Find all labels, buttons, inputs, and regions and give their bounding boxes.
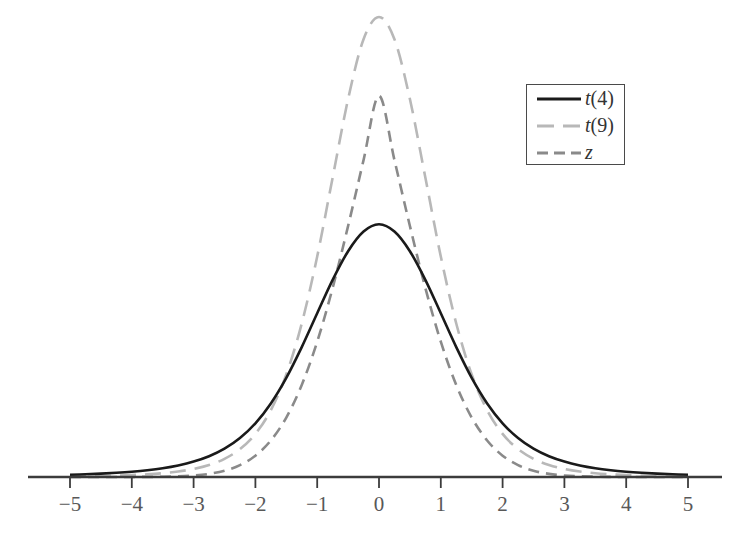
x-axis-tick-label: −5 (40, 494, 100, 515)
legend-label-t-9: t(9) (585, 114, 614, 137)
legend-entry-t-4: t(4) (527, 85, 624, 112)
legend-swatch-t-9 (535, 112, 583, 139)
x-axis-tick-label: −1 (287, 494, 347, 515)
x-axis-tick-label: 3 (534, 494, 594, 515)
legend-label-t-4-paren: (4) (591, 87, 614, 109)
legend-label-t-4: t(4) (585, 87, 614, 110)
x-axis-tick-label: 2 (473, 494, 533, 515)
x-axis-tick-label: 0 (349, 494, 409, 515)
legend-label-t-9-paren: (9) (591, 114, 614, 136)
legend-label-z-symbol: z (585, 141, 593, 163)
x-axis-tick-label: 1 (411, 494, 471, 515)
legend-entry-z: z (527, 139, 624, 166)
legend-swatch-t-4 (535, 85, 583, 112)
legend: t(4) t(9) z (526, 84, 625, 165)
curve-t-4 (70, 224, 688, 474)
legend-label-z: z (585, 141, 593, 164)
x-axis-tick-label: 4 (596, 494, 656, 515)
legend-swatch-z (535, 139, 583, 166)
x-axis-tick-label: −2 (225, 494, 285, 515)
density-plot-figure: −5−4−3−2−1012345 t(4) t(9) (0, 0, 756, 538)
x-axis-group (28, 477, 722, 488)
x-axis-tick-label: −3 (164, 494, 224, 515)
plot-canvas (0, 0, 756, 538)
x-axis-ticks (70, 477, 688, 488)
x-axis-tick-label: 5 (658, 494, 718, 515)
legend-entry-t-9: t(9) (527, 112, 624, 139)
x-axis-tick-label: −4 (102, 494, 162, 515)
